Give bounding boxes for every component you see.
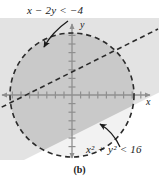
y-axis-label: y [80,19,84,30]
figure-container: x − 2y < −4 x² + y² < 16 y x (b) [0,0,159,180]
figure-caption: (b) [0,164,159,175]
x-axis-label: x [146,96,150,107]
circle-inequality-label: x² + y² < 16 [86,143,142,155]
linear-inequality-label: x − 2y < −4 [27,4,83,16]
